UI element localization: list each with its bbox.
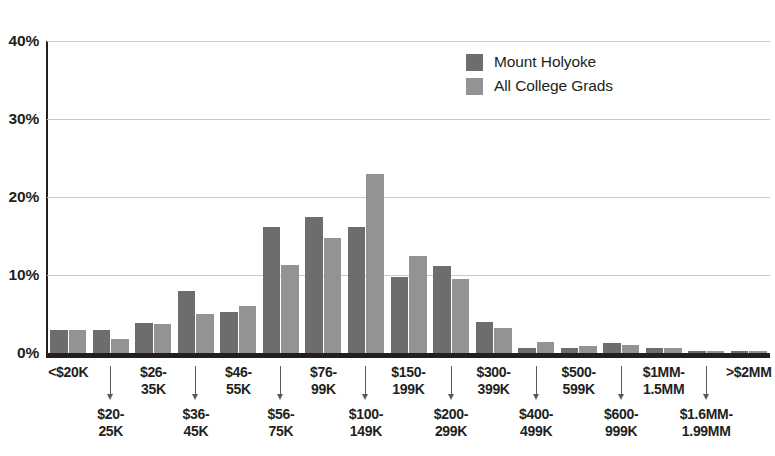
x-axis-tick-label: $36- 45K [159, 406, 233, 440]
x-axis-tick-label: $76- 99K [286, 364, 360, 398]
bars-layer [47, 41, 770, 353]
x-axis-tick-label: <$20K [31, 364, 105, 381]
x-axis-tick-label: $200- 299K [414, 406, 488, 440]
legend-label: All College Grads [494, 77, 613, 95]
x-axis-tick-label: $600- 999K [584, 406, 658, 440]
tick-arrow-icon [276, 366, 285, 402]
legend-item[interactable]: Mount Holyoke [466, 50, 613, 74]
y-tick-label: 20% [9, 188, 39, 206]
tick-arrow-icon [361, 366, 370, 402]
legend-item[interactable]: All College Grads [466, 74, 613, 98]
x-axis-tick-label: $26- 35K [116, 364, 190, 398]
tick-arrow-icon [191, 366, 200, 402]
x-axis-tick-label: $300- 399K [457, 364, 531, 398]
x-axis-tick-label: $100- 149K [329, 406, 403, 440]
x-axis-tick-label: $46- 55K [201, 364, 275, 398]
bar [220, 312, 238, 353]
x-axis-tick-label: $20- 25K [74, 406, 148, 440]
bar [348, 227, 366, 353]
bar [366, 174, 384, 353]
x-axis-category-labels: <$20K$20- 25K$26- 35K$36- 45K$46- 55K$56… [0, 358, 775, 456]
y-tick-label: 10% [9, 266, 39, 284]
bar [391, 277, 409, 353]
legend-label: Mount Holyoke [494, 53, 596, 71]
bar [409, 256, 427, 353]
bar [452, 279, 470, 353]
income-distribution-bar-chart: 40%30%20%10%0% Mount HolyokeAll College … [0, 0, 775, 456]
x-axis-tick-label: >$2MM [712, 364, 775, 381]
bar [622, 345, 640, 353]
bar [178, 291, 196, 353]
bar [154, 324, 172, 353]
x-axis-tick-label: $56- 75K [244, 406, 318, 440]
bar [305, 217, 323, 353]
bar [263, 227, 281, 353]
bar [579, 346, 597, 353]
bar [69, 330, 87, 353]
x-axis-tick-label: $150- 199K [372, 364, 446, 398]
bar [603, 343, 621, 353]
legend-swatch-icon [466, 78, 483, 95]
bar [494, 328, 512, 353]
bar [537, 342, 555, 353]
tick-arrow-icon [617, 366, 626, 402]
bar [93, 330, 111, 353]
bar [50, 330, 68, 353]
x-axis-tick-label: $400- 499K [499, 406, 573, 440]
tick-arrow-icon [106, 366, 115, 402]
plot-area [47, 41, 770, 353]
x-axis-tick-label: $500- 599K [542, 364, 616, 398]
tick-arrow-icon [702, 366, 711, 402]
bar [135, 323, 153, 353]
bar [433, 266, 451, 353]
legend-swatch-icon [466, 54, 483, 71]
bar [324, 238, 342, 353]
bar [476, 322, 494, 353]
x-axis-tick-label: $1.6MM- 1.99MM [669, 406, 743, 440]
tick-arrow-icon [532, 366, 541, 402]
bar [111, 339, 129, 353]
bar [281, 265, 299, 353]
bar [239, 306, 257, 353]
tick-arrow-icon [447, 366, 456, 402]
bar [196, 314, 214, 353]
x-axis-tick-label: $1MM- 1.5MM [627, 364, 701, 398]
y-tick-label: 40% [9, 32, 39, 50]
y-tick-label: 30% [9, 110, 39, 128]
chart-legend: Mount HolyokeAll College Grads [466, 50, 613, 98]
